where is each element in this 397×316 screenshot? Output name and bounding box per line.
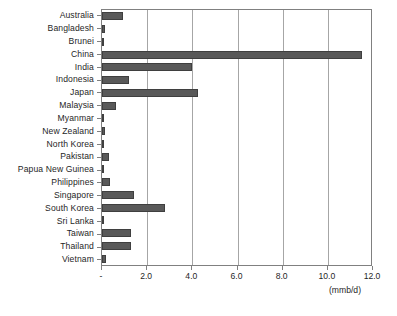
x-tick-mark xyxy=(282,266,283,270)
bar-row xyxy=(102,10,371,23)
bar-row xyxy=(102,252,371,265)
bar xyxy=(102,25,105,33)
x-tick-label: 4.0 xyxy=(185,272,197,281)
x-tick-label: 8.0 xyxy=(276,272,288,281)
bar xyxy=(102,76,129,84)
category-label: India xyxy=(0,60,98,73)
x-tick-mark xyxy=(327,266,328,270)
category-label: Japan xyxy=(0,86,98,99)
bar xyxy=(102,216,104,224)
bar-row xyxy=(102,240,371,253)
bar xyxy=(102,102,116,110)
category-label: Australia xyxy=(0,9,98,22)
x-tick-mark xyxy=(101,266,102,270)
bar xyxy=(102,191,134,199)
bar-row xyxy=(102,87,371,100)
bar-row xyxy=(102,23,371,36)
bar-row xyxy=(102,61,371,74)
category-label: Papua New Guinea xyxy=(0,163,98,176)
category-label: Myanmar xyxy=(0,112,98,125)
bar-row xyxy=(102,189,371,202)
x-axis-tick-labels: -2.04.06.08.010.012.0 xyxy=(101,272,372,286)
bar-row xyxy=(102,214,371,227)
category-label: Singapore xyxy=(0,189,98,202)
bar xyxy=(102,153,109,161)
bar xyxy=(102,38,104,46)
bar-row xyxy=(102,74,371,87)
x-tick-mark xyxy=(146,266,147,270)
bars-layer xyxy=(102,10,371,265)
bar xyxy=(102,242,131,250)
bar xyxy=(102,114,104,122)
x-tick-mark xyxy=(372,266,373,270)
category-label: China xyxy=(0,48,98,61)
bar-row xyxy=(102,227,371,240)
category-label: South Korea xyxy=(0,202,98,215)
bar-chart: AustraliaBangladeshBruneiChinaIndiaIndon… xyxy=(0,0,397,316)
category-label: Bangladesh xyxy=(0,22,98,35)
bar-row xyxy=(102,176,371,189)
plot-area xyxy=(101,9,372,266)
x-tick-label: 10.0 xyxy=(318,272,335,281)
category-label: Philippines xyxy=(0,176,98,189)
bar xyxy=(102,51,362,59)
bar-row xyxy=(102,163,371,176)
category-axis-labels: AustraliaBangladeshBruneiChinaIndiaIndon… xyxy=(0,9,98,266)
category-label: Pakistan xyxy=(0,150,98,163)
bar-row xyxy=(102,138,371,151)
category-label: Vietnam xyxy=(0,253,98,266)
category-label: Brunei xyxy=(0,35,98,48)
bar xyxy=(102,229,131,237)
category-label: New Zealand xyxy=(0,125,98,138)
bar xyxy=(102,127,105,135)
category-label: Sri Lanka xyxy=(0,215,98,228)
bar xyxy=(102,255,106,263)
bar xyxy=(102,165,104,173)
x-tick-mark xyxy=(237,266,238,270)
bar xyxy=(102,140,104,148)
x-axis-unit-label: (mmb/d) xyxy=(329,286,361,295)
x-tick-label: - xyxy=(100,272,103,281)
category-label: North Korea xyxy=(0,137,98,150)
bar-row xyxy=(102,36,371,49)
bar-row xyxy=(102,99,371,112)
bar xyxy=(102,89,198,97)
bar xyxy=(102,63,192,71)
bar xyxy=(102,204,165,212)
category-label: Taiwan xyxy=(0,227,98,240)
category-label: Thailand xyxy=(0,240,98,253)
bar xyxy=(102,12,123,20)
x-tick-label: 6.0 xyxy=(231,272,243,281)
bar-row xyxy=(102,150,371,163)
bar-row xyxy=(102,48,371,61)
x-tick-label: 2.0 xyxy=(140,272,152,281)
x-tick-label: 12.0 xyxy=(364,272,381,281)
x-tick-mark xyxy=(191,266,192,270)
bar-row xyxy=(102,201,371,214)
bar xyxy=(102,178,110,186)
category-label: Indonesia xyxy=(0,73,98,86)
category-label: Malaysia xyxy=(0,99,98,112)
bar-row xyxy=(102,125,371,138)
bar-row xyxy=(102,112,371,125)
